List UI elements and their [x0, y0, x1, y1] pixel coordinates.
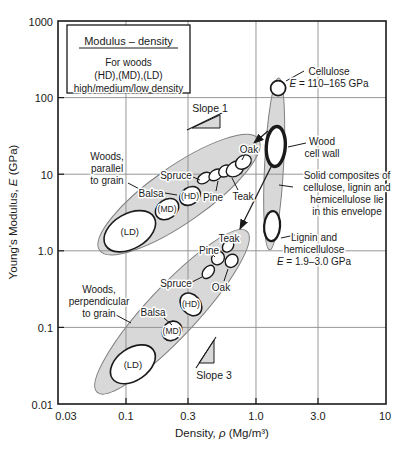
- pine-perpendicular-label-line-1: Pine: [199, 245, 219, 256]
- woods-perpendicular-label-leader: [116, 315, 131, 323]
- cellulose-ellipse: [271, 81, 286, 96]
- solid-composites-label-line-1: Solid composites of: [304, 170, 391, 181]
- hd-parallel-inside-label-line-1: (HD): [181, 191, 199, 201]
- lignin-label-line-1: Lignin and: [291, 232, 337, 243]
- md-perpendicular-inside-label-line-1: (MD): [163, 326, 182, 336]
- spruce-perpendicular-label-line-1: Spruce: [160, 278, 192, 289]
- y-tick-label-100: 100: [35, 92, 53, 104]
- solid-composites-label-line-2: cellulose, lignin and: [303, 182, 390, 193]
- y-tick-label-1000: 1000: [29, 16, 53, 28]
- x-tick-label-0.03: 0.03: [55, 410, 76, 422]
- oak-perpendicular-label-line-1: Oak: [212, 282, 231, 293]
- woods-parallel-label-line-3: to grain: [90, 175, 123, 186]
- woods-perpendicular-label-line-1: Woods,: [82, 284, 116, 295]
- woods-parallel-label-line-2: parallel: [91, 163, 123, 174]
- cellulose-label-line-2: E = 110–165 GPa: [289, 78, 368, 89]
- woods-perpendicular-label-line-2: perpendicular: [69, 296, 130, 307]
- wood-cell-wall-label-leader: [288, 143, 306, 147]
- key-title-line-1: Modulus – density: [84, 35, 173, 47]
- md-parallel-inside-label-line-1: (MD): [158, 204, 177, 214]
- y-tick-label-1.0: 1.0: [38, 245, 53, 257]
- spruce-parallel-label-line-1: Spruce: [160, 170, 192, 181]
- ld-parallel-inside-label-line-1: (LD): [121, 226, 139, 237]
- balsa-perpendicular-label-line-1: Balsa: [140, 307, 165, 318]
- x-axis-label: Density, ρ (Mg/m³): [175, 427, 269, 439]
- slope-1-label-line-1: Slope 1: [192, 102, 228, 114]
- teak-perpendicular-label-line-1: Teak: [218, 233, 240, 244]
- woods-perpendicular-label-line-3: to grain: [82, 308, 115, 319]
- x-tick-label-0.1: 0.1: [118, 410, 133, 422]
- x-tick-label-1.0: 1.0: [248, 410, 263, 422]
- oak-parallel-label-line-1: Oak: [240, 144, 259, 155]
- woods-parallel-label-line-1: Woods,: [90, 151, 124, 162]
- x-tick-label-3.0: 3.0: [310, 410, 325, 422]
- solid-composites-label-line-3: hemicellulose lie: [310, 194, 384, 205]
- modulus-density-chart: Slope 1Slope 3Woods,parallelto grainWood…: [0, 0, 406, 454]
- wood-cell-wall-label-line-2: cell wall: [304, 148, 339, 159]
- hd-perpendicular-inside-label-line-1: (HD): [182, 299, 200, 309]
- balsa-parallel-label-line-1: Balsa: [138, 188, 163, 199]
- pine-parallel-label-line-1: Pine: [203, 192, 223, 203]
- x-tick-label-10: 10: [379, 410, 391, 422]
- y-axis-label: Young's Modulus, E (GPa): [7, 144, 19, 279]
- cellulose-label-line-1: Cellulose: [308, 66, 350, 77]
- key-line-1-line-1: For woods: [105, 57, 152, 68]
- key-line-2-line-1: (HD),(MD),(LD): [94, 70, 162, 81]
- ld-perpendicular-inside-label-line-1: (LD): [124, 359, 142, 370]
- slope-3-label-line-1: Slope 3: [196, 369, 232, 381]
- y-tick-label-0.1: 0.1: [38, 322, 53, 334]
- key-line-3-line-1: high/medium/low density: [74, 83, 184, 94]
- teak-parallel-label-line-1: Teak: [232, 191, 254, 202]
- wood-cell-wall-ellipse: [265, 126, 287, 167]
- x-tick-label-0.3: 0.3: [180, 410, 195, 422]
- y-tick-label-0.01: 0.01: [32, 399, 53, 411]
- ashby-chart-figure: Slope 1Slope 3Woods,parallelto grainWood…: [0, 0, 406, 454]
- lignin-label-line-2: hemicellulose: [284, 244, 345, 255]
- lignin-label-line-3: E = 1.9–3.0 GPa: [277, 256, 352, 267]
- wood-cell-wall-label-line-1: Wood: [309, 136, 335, 147]
- y-tick-label-10: 10: [41, 169, 53, 181]
- solid-composites-label-line-4: in this envelope: [312, 206, 382, 217]
